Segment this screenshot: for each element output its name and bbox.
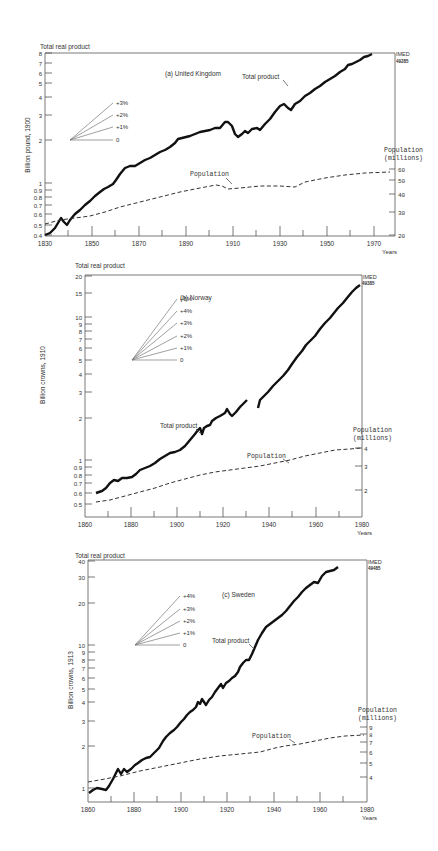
population-annotation: Population [247,453,286,460]
svg-text:0.4: 0.4 [34,233,43,239]
svg-text:5: 5 [369,761,373,768]
svg-text:20: 20 [75,274,82,280]
growth-rate-fan: 0 +1% +2% +3% +4% [135,593,196,648]
svg-text:4: 4 [79,372,83,378]
chart-panel-sweden: Total real product (c) Sweden Billion cr… [67,552,397,821]
svg-text:6: 6 [369,750,373,757]
svg-text:7: 7 [369,740,373,747]
x-axis-label: Years [382,249,397,255]
svg-text:6: 6 [82,676,86,682]
svg-text:30: 30 [398,210,406,217]
svg-text:8: 8 [82,658,86,664]
svg-text:1: 1 [82,786,86,792]
svg-text:8: 8 [39,51,43,57]
stamp: IMED 49285 [396,51,410,64]
x-axis-label: Years [357,530,372,536]
svg-text:1870: 1870 [132,240,147,247]
svg-text:0.5: 0.5 [34,223,43,229]
svg-text:1930: 1930 [273,240,288,247]
svg-text:0: 0 [116,137,120,143]
svg-text:1830: 1830 [38,240,53,247]
svg-text:0: 0 [183,642,187,648]
svg-text:7: 7 [79,337,83,343]
stamp: IMED 49385 [362,274,377,286]
svg-text:8: 8 [79,329,83,335]
svg-text:49485: 49485 [368,566,381,571]
svg-text:8: 8 [369,732,373,739]
svg-text:0.8: 0.8 [74,473,83,479]
svg-text:40: 40 [78,559,85,565]
svg-text:+5%: +5% [180,296,193,302]
svg-text:9: 9 [79,322,83,328]
svg-text:10: 10 [78,643,85,649]
population-axis-unit: (millions) [384,155,423,162]
svg-text:+1%: +1% [183,630,196,636]
svg-text:9: 9 [369,725,373,732]
svg-text:3: 3 [39,113,43,119]
svg-text:+1%: +1% [180,345,193,351]
svg-text:4: 4 [39,95,43,101]
svg-text:7: 7 [39,61,43,67]
svg-text:1890: 1890 [179,240,194,247]
total-product-line [89,567,338,793]
annotation-pointer [226,178,232,184]
population-axis-label: Population [384,147,423,154]
svg-text:1900: 1900 [170,521,185,528]
svg-text:5: 5 [39,81,43,87]
svg-text:1940: 1940 [262,521,277,528]
svg-text:0.5: 0.5 [74,502,83,508]
x-ticks: 1860 1880 1900 1920 1940 1960 1980 [78,507,370,528]
svg-text:9: 9 [82,650,86,656]
total-product-line-postwar [258,285,360,408]
svg-text:1910: 1910 [226,240,241,247]
svg-text:7: 7 [82,666,86,672]
svg-text:1970: 1970 [367,240,382,247]
y-right-ticks: 4 3 2 [355,446,368,495]
figure-canvas: Total real product (a) United Kingdom Bi… [0,0,438,851]
annotation-pointer [289,739,295,743]
y-right-ticks: 9 8 7 6 5 4 [360,725,373,782]
svg-text:1920: 1920 [216,521,231,528]
svg-text:+2%: +2% [116,112,129,118]
x-axis-label: Years [362,815,377,821]
top-label: Total real product [40,43,90,51]
svg-text:IMED: IMED [363,274,377,280]
svg-text:5: 5 [79,358,83,364]
svg-text:3: 3 [82,719,86,725]
svg-text:2: 2 [82,744,86,750]
y-ticks: 20 15 10 9 8 7 6 5 4 3 2 1 0.9 0.8 0.7 0… [74,274,92,508]
svg-text:1880: 1880 [124,521,139,528]
svg-text:3: 3 [79,390,83,396]
population-line [88,735,364,782]
svg-text:20: 20 [78,601,85,607]
svg-text:+2%: +2% [183,618,196,624]
svg-text:IMED: IMED [368,559,382,565]
svg-text:0.9: 0.9 [74,465,83,471]
svg-text:3: 3 [364,464,368,471]
stamp: IMED 49485 [368,559,382,571]
svg-text:1980: 1980 [360,806,375,813]
total-product-annotation: Total product [212,637,249,645]
growth-rate-fan: 0 +1% +2% +3% [70,100,129,143]
svg-text:0: 0 [180,357,184,363]
svg-text:1950: 1950 [320,240,335,247]
y-axis-label: Billion crowns, 1913 [67,651,74,709]
svg-text:30: 30 [78,575,85,581]
svg-text:+4%: +4% [180,308,193,314]
svg-text:6: 6 [39,71,43,77]
y-ticks: 40 30 20 10 9 8 7 6 5 4 3 2 1 [78,559,95,792]
svg-text:6: 6 [79,346,83,352]
svg-text:49285: 49285 [396,59,409,64]
svg-text:60: 60 [398,167,406,174]
svg-text:1900: 1900 [174,806,189,813]
svg-text:2: 2 [39,138,43,144]
svg-text:IMED: IMED [396,51,410,57]
svg-text:40: 40 [398,192,406,199]
svg-text:2: 2 [364,488,368,495]
y-axis-label: Billion pound, 1900 [24,117,32,173]
y-right-ticks: 60 50 40 30 20 [389,167,406,240]
svg-text:+1%: +1% [116,124,129,130]
svg-text:0.6: 0.6 [34,212,43,218]
svg-text:+3%: +3% [180,320,193,326]
svg-text:1960: 1960 [313,806,328,813]
